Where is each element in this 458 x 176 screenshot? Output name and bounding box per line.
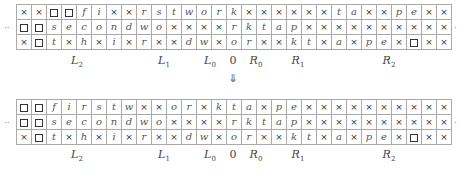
cross-cell: ×: [377, 20, 392, 35]
cross-cell: ×: [167, 130, 182, 145]
cross-cell: ×: [422, 20, 437, 35]
letter-cell: o: [167, 100, 182, 115]
letter-cell: s: [47, 115, 62, 130]
letter-cell: r: [242, 35, 257, 50]
cross-cell: ×: [197, 100, 212, 115]
letter-cell: t: [227, 100, 242, 115]
cross-cell: ×: [362, 115, 377, 130]
cross-cell: ×: [362, 5, 377, 20]
cross-cell: ×: [407, 20, 422, 35]
letter-cell: k: [287, 35, 302, 50]
cross-cell: ×: [152, 35, 167, 50]
blank-box-cell: [32, 100, 47, 115]
letter-cell: a: [272, 20, 287, 35]
cross-cell: ×: [257, 35, 272, 50]
letter-cell: w: [182, 5, 197, 20]
blank-box-cell: [17, 20, 32, 35]
cross-cell: ×: [437, 20, 452, 35]
blank-box-cell: [32, 35, 47, 50]
letter-cell: h: [77, 35, 92, 50]
cross-cell: ×: [362, 100, 377, 115]
box-icon: [50, 9, 58, 17]
tape-track-3: ×t×h×i×r××dw×or××kt×a×pe×××: [17, 35, 452, 50]
letter-cell: p: [287, 20, 302, 35]
letter-cell: n: [107, 115, 122, 130]
cross-cell: ×: [122, 35, 137, 50]
cross-cell: ×: [272, 5, 287, 20]
position-label-r2: R2: [383, 148, 396, 163]
double-down-arrow-icon: ⇓: [228, 72, 237, 85]
bottom-left-ellipsis: ··: [4, 118, 10, 128]
letter-cell: k: [212, 100, 227, 115]
position-label-r0: R0: [250, 54, 263, 69]
cross-cell: ×: [17, 35, 32, 50]
cross-cell: ×: [62, 130, 77, 145]
top-right-ellipsis: ·: [454, 23, 457, 33]
cross-cell: ×: [137, 100, 152, 115]
cross-cell: ×: [212, 20, 227, 35]
cross-cell: ×: [317, 35, 332, 50]
letter-cell: o: [152, 20, 167, 35]
letter-cell: r: [77, 100, 92, 115]
cross-cell: ×: [167, 35, 182, 50]
letter-cell: f: [77, 5, 92, 20]
position-label-l0: L0: [204, 54, 216, 69]
blank-box-cell: [47, 5, 62, 20]
top-tape-grid: ××fi××rstwork××××××ta××pe××secondwo××××r…: [16, 4, 452, 50]
letter-cell: p: [287, 115, 302, 130]
letter-cell: t: [332, 5, 347, 20]
letter-cell: k: [242, 115, 257, 130]
cross-cell: ×: [257, 5, 272, 20]
cross-cell: ×: [167, 20, 182, 35]
letter-cell: p: [272, 100, 287, 115]
cross-cell: ×: [347, 35, 362, 50]
position-label-r0: R0: [250, 148, 263, 163]
cross-cell: ×: [407, 100, 422, 115]
letter-cell: a: [332, 130, 347, 145]
letter-cell: o: [227, 130, 242, 145]
cross-cell: ×: [272, 130, 287, 145]
cross-cell: ×: [437, 100, 452, 115]
cross-cell: ×: [197, 20, 212, 35]
cross-cell: ×: [302, 5, 317, 20]
letter-cell: i: [92, 5, 107, 20]
letter-cell: i: [62, 100, 77, 115]
cross-cell: ×: [257, 100, 272, 115]
blank-box-cell: [17, 100, 32, 115]
cross-cell: ×: [17, 130, 32, 145]
cross-cell: ×: [437, 5, 452, 20]
cross-cell: ×: [332, 20, 347, 35]
letter-cell: o: [152, 115, 167, 130]
letter-cell: t: [257, 20, 272, 35]
letter-cell: w: [137, 20, 152, 35]
box-icon: [20, 104, 28, 112]
cross-cell: ×: [422, 130, 437, 145]
cross-cell: ×: [437, 115, 452, 130]
letter-cell: t: [107, 100, 122, 115]
letter-cell: t: [167, 5, 182, 20]
letter-cell: t: [257, 115, 272, 130]
cross-cell: ×: [287, 5, 302, 20]
letter-cell: i: [107, 130, 122, 145]
letter-cell: e: [62, 115, 77, 130]
cross-cell: ×: [422, 100, 437, 115]
letter-cell: a: [332, 35, 347, 50]
top-left-ellipsis: ··: [4, 23, 10, 33]
letter-cell: p: [362, 35, 377, 50]
cross-cell: ×: [317, 20, 332, 35]
box-icon: [20, 24, 28, 32]
cross-cell: ×: [392, 130, 407, 145]
letter-cell: e: [407, 5, 422, 20]
letter-cell: r: [212, 5, 227, 20]
cross-cell: ×: [302, 20, 317, 35]
position-label-l2: L2: [71, 148, 83, 163]
cross-cell: ×: [62, 35, 77, 50]
position-label-r1: R1: [292, 148, 305, 163]
position-label-r2: R2: [383, 54, 396, 69]
tape-track-1: firstw××or×kta×pe××××××××××: [17, 100, 452, 115]
box-icon: [35, 39, 43, 47]
cross-cell: ×: [212, 35, 227, 50]
position-label-r1: R1: [292, 54, 305, 69]
letter-cell: e: [287, 100, 302, 115]
letter-cell: r: [137, 130, 152, 145]
